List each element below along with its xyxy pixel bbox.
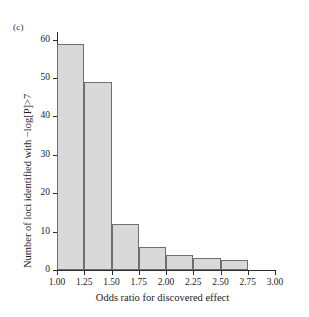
- x-tick-mark: [139, 271, 140, 275]
- x-tick-mark: [166, 271, 167, 275]
- y-tick-label: 10: [41, 227, 51, 237]
- x-tick-mark: [221, 271, 222, 275]
- x-axis-title: Odds ratio for discovered effect: [0, 292, 309, 303]
- y-tick-label: 30: [41, 150, 51, 160]
- histogram-bar: [221, 260, 248, 270]
- histogram-bar: [166, 255, 193, 270]
- histogram-bar: [112, 224, 139, 270]
- histogram-bar: [84, 82, 111, 270]
- plot-area: [57, 32, 275, 270]
- x-tick-label: 1.00: [49, 277, 66, 287]
- y-tick-label: 40: [41, 112, 51, 122]
- x-tick-mark: [84, 271, 85, 275]
- x-tick-label: 2.00: [158, 277, 175, 287]
- x-tick-label: 1.50: [103, 277, 120, 287]
- y-tick-label: 50: [41, 73, 51, 83]
- x-tick-label: 2.25: [185, 277, 202, 287]
- x-tick-mark: [193, 271, 194, 275]
- histogram-bar: [139, 247, 166, 270]
- y-tick-label: 20: [41, 188, 51, 198]
- x-tick-label: 1.75: [130, 277, 147, 287]
- histogram-bar: [193, 258, 220, 270]
- x-axis-title-text: Odds ratio for discovered effect: [96, 292, 229, 303]
- x-tick-label: 2.75: [239, 277, 256, 287]
- x-tick-mark: [112, 271, 113, 275]
- x-tick-mark: [57, 271, 58, 275]
- histogram-figure: (c) Number of loci identified with −log[…: [0, 0, 309, 317]
- x-tick-mark: [248, 271, 249, 275]
- histogram-bar: [57, 44, 84, 270]
- x-tick-label: 3.00: [267, 277, 284, 287]
- x-tick-label: 1.25: [76, 277, 93, 287]
- y-axis-ticks: 0102030405060: [0, 0, 57, 271]
- x-tick-label: 2.50: [212, 277, 229, 287]
- x-tick-mark: [275, 271, 276, 275]
- y-tick-label: 60: [41, 35, 51, 45]
